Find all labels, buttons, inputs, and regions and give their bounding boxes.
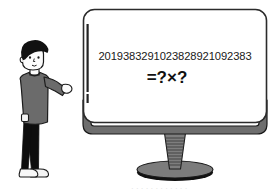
illustration-scene: 2019383291023828921092383 =?×? <box>0 0 273 196</box>
person-eye-right <box>37 56 39 59</box>
person-hand <box>62 84 72 93</box>
scene-svg: 2019383291023828921092383 =?×? <box>0 0 273 196</box>
person-shoe-front <box>19 169 38 177</box>
screen-number-text: 2019383291023828921092383 <box>98 50 251 62</box>
monitor: 2019383291023828921092383 =?×? <box>83 10 267 182</box>
person <box>19 40 72 177</box>
person-cuff <box>22 114 29 122</box>
screen-left-bar <box>87 24 89 92</box>
person-eye-left <box>29 56 31 59</box>
screen-equation-text: =?×? <box>147 68 188 87</box>
monitor-screen <box>84 10 267 123</box>
screen-left-bar-lower <box>87 94 89 103</box>
